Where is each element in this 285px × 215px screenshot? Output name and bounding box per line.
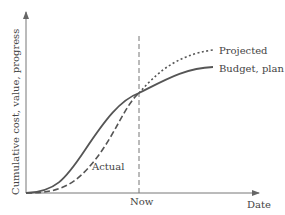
- y-axis-label: Cumulative cost, value, progress: [10, 29, 21, 195]
- actual-label: Actual: [91, 161, 124, 172]
- s-curve-diagram: Cumulative cost, value, progress Date No…: [0, 0, 285, 215]
- now-label: Now: [130, 196, 154, 207]
- budget-plan-curve: [26, 67, 213, 193]
- x-axis-label: Date: [247, 199, 271, 210]
- projected-label: Projected: [219, 45, 268, 56]
- budget-plan-label: Budget, plan: [219, 63, 284, 74]
- actual-curve: [26, 93, 139, 193]
